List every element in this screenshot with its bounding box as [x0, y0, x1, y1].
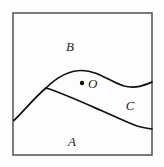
point-label-O: O [88, 77, 97, 90]
region-label-A: A [68, 135, 76, 148]
figure-container: B C A O [0, 0, 164, 167]
region-label-B: B [66, 40, 74, 53]
point-O-dot [80, 81, 84, 85]
region-diagram [0, 0, 164, 167]
region-label-C: C [126, 99, 135, 112]
